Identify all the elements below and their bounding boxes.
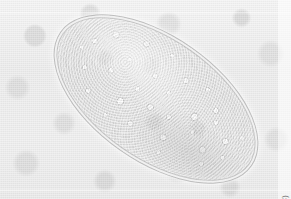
- photomicrograph-figure: Source: Centers for Disease Control and …: [0, 0, 291, 199]
- source-credit: Source: Centers for Disease Control and …: [280, 195, 290, 199]
- credit-strip: [278, 0, 291, 199]
